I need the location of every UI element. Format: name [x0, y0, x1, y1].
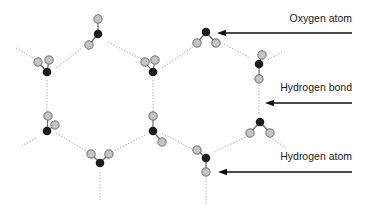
hydrogen-atom	[45, 56, 53, 64]
oxygen-atom	[149, 68, 158, 77]
hydrogen-atom	[141, 58, 149, 66]
hydrogen-atom	[44, 112, 52, 120]
oxygen-atom	[43, 68, 52, 77]
hydrogen-bond-label: Hydrogen bond	[280, 81, 352, 93]
hydrogen-bond-line	[56, 48, 82, 68]
oxygen-atom-label: Oxygen atom	[290, 12, 352, 24]
oxygen-atom	[255, 60, 264, 69]
water-molecule	[34, 56, 53, 76]
hydrogen-bond-line	[56, 133, 88, 152]
hydrogen-atom	[266, 129, 274, 137]
water-molecule	[85, 15, 102, 49]
water-molecule	[246, 118, 274, 138]
hydrogen-atom	[212, 39, 220, 47]
hydrogen-atom	[193, 146, 201, 154]
hydrogen-bond-line	[112, 135, 145, 152]
water-molecule	[43, 112, 59, 136]
hydrogen-bond-line	[108, 42, 143, 60]
hydrogen-atom	[246, 129, 254, 137]
hydrogen-bond-line	[268, 52, 282, 60]
hydrogen-atom	[149, 112, 157, 120]
hydrogen-atom	[51, 121, 59, 129]
hydrogen-bond-line	[270, 137, 286, 148]
water-molecule	[193, 28, 220, 47]
oxygen-atom	[202, 154, 211, 163]
hydrogen-atom	[34, 58, 42, 66]
hydrogen-atom	[105, 150, 113, 158]
arrowhead-icon	[265, 100, 274, 106]
hydrogen-bond-line	[22, 138, 36, 146]
water-molecule	[193, 146, 211, 176]
oxygen-atom	[256, 118, 265, 127]
water-molecule	[149, 112, 167, 146]
hydrogen-bond-line	[16, 48, 36, 60]
hydrogen-atom	[193, 39, 201, 47]
water-molecule	[87, 150, 113, 168]
hydrogen-bond-line	[224, 44, 250, 58]
hydrogen-atom	[85, 41, 93, 49]
hydrogen-bond-line	[162, 46, 194, 68]
oxygen-atom	[43, 127, 52, 136]
water-molecules	[34, 15, 274, 176]
hydrogen-atom	[255, 75, 263, 83]
hydrogen-atom	[87, 150, 95, 158]
water-molecule	[141, 56, 159, 76]
hydrogen-bond-line	[162, 133, 194, 150]
hydrogen-atom	[202, 168, 210, 176]
hydrogen-atom	[94, 15, 102, 23]
hydrogen-bond-line	[214, 136, 248, 152]
hydrogen-atom-label: Hydrogen atom	[280, 150, 352, 162]
oxygen-atom	[149, 127, 158, 136]
oxygen-atom	[202, 28, 211, 37]
oxygen-atom	[94, 30, 103, 39]
oxygen-atom	[96, 159, 105, 168]
water-molecule	[255, 51, 266, 83]
arrowhead-icon	[217, 30, 226, 36]
hydrogen-atom	[258, 51, 266, 59]
hydrogen-atom	[151, 56, 159, 64]
arrowhead-icon	[218, 169, 227, 175]
hydrogen-atom	[158, 138, 166, 146]
water-hbond-diagram	[0, 0, 368, 211]
